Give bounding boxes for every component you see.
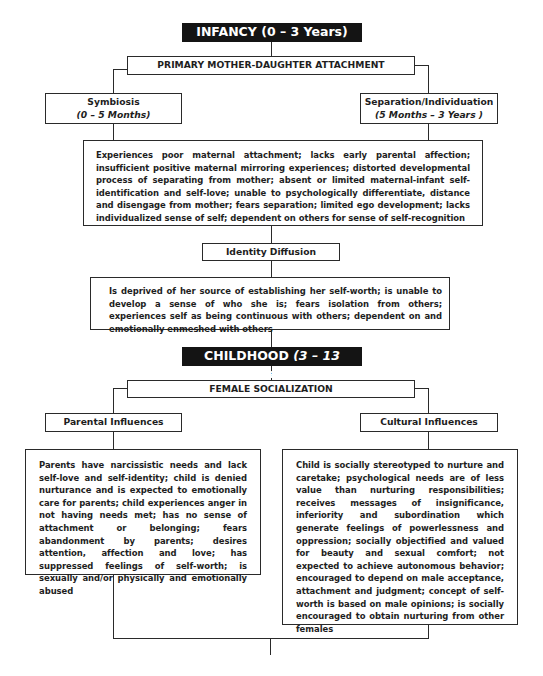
connector <box>113 388 128 389</box>
separation-title: Separation/Individuation <box>361 96 497 109</box>
connector <box>414 65 429 66</box>
female-socialization-label: FEMALE SOCIALIZATION <box>209 383 332 394</box>
connector <box>428 123 429 141</box>
childhood-header-label: CHILDHOOD <box>204 348 289 363</box>
connector <box>428 65 429 94</box>
symbiosis-title: Symbiosis <box>46 96 181 109</box>
identity-diffusion-box: Identity Diffusion <box>202 243 340 261</box>
cultural-influences-desc-box: Child is socially stereotyped to nurture… <box>282 449 518 625</box>
connector <box>270 638 271 655</box>
connector <box>428 431 429 450</box>
connector <box>271 260 272 277</box>
childhood-header: CHILDHOOD (3 – 13 Years) <box>182 347 362 366</box>
parental-influences-desc-box: Parents have narcissistic needs and lack… <box>25 449 261 575</box>
cultural-influences-text: Child is socially stereotyped to nurture… <box>296 459 504 635</box>
connector <box>113 431 114 450</box>
connector <box>113 123 114 141</box>
infancy-experiences-text: Experiences poor maternal attachment; la… <box>96 149 470 225</box>
cultural-influences-box: Cultural Influences <box>360 413 498 432</box>
parental-influences-text: Parents have narcissistic needs and lack… <box>39 459 247 598</box>
infancy-header: INFANCY (0 – 3 Years) <box>182 23 362 42</box>
connector <box>113 388 114 414</box>
symbiosis-box: Symbiosis (0 – 5 Months) <box>45 93 182 124</box>
connector <box>271 225 272 243</box>
connector <box>271 41 272 57</box>
symbiosis-range: (0 – 5 Months) <box>46 109 181 122</box>
identity-diffusion-desc-box: Is deprived of her source of establishin… <box>90 277 450 330</box>
attachment-box: PRIMARY MOTHER-DAUGHTER ATTACHMENT <box>127 56 415 75</box>
parental-influences-label: Parental Influences <box>63 416 163 427</box>
cultural-influences-label: Cultural Influences <box>380 416 478 427</box>
connector <box>414 388 429 389</box>
connector <box>428 388 429 414</box>
identity-diffusion-text: Is deprived of her source of establishin… <box>109 285 442 335</box>
parental-influences-box: Parental Influences <box>45 413 182 432</box>
attachment-label: PRIMARY MOTHER-DAUGHTER ATTACHMENT <box>157 59 384 70</box>
connector <box>113 69 128 70</box>
infancy-header-label: INFANCY (0 – 3 Years) <box>196 24 347 39</box>
connector <box>113 69 114 94</box>
separation-range: (5 Months – 3 Years ) <box>361 109 497 122</box>
separation-box: Separation/Individuation (5 Months – 3 Y… <box>360 93 498 124</box>
infancy-experiences-box: Experiences poor maternal attachment; la… <box>83 140 483 226</box>
identity-diffusion-label: Identity Diffusion <box>226 246 316 257</box>
female-socialization-box: FEMALE SOCIALIZATION <box>127 380 415 398</box>
